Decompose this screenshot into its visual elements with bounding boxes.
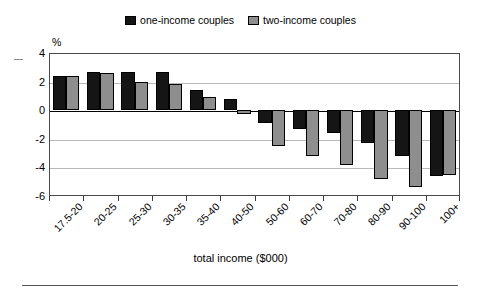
legend-entry-one-income: one-income couples	[125, 14, 234, 26]
footer-divider	[22, 285, 458, 286]
y-tick-label: 2	[15, 77, 45, 88]
y-tick-label: -4	[15, 162, 45, 173]
x-tick-label: 100+	[437, 201, 462, 226]
gridline--4	[50, 168, 459, 169]
legend-label-one-income: one-income couples	[140, 14, 234, 26]
plot-area	[49, 53, 460, 196]
gridline--2	[50, 140, 459, 141]
x-axis-tick-labels: 17.5-2020-2525-3030-3535-4040-5050-6060-…	[49, 201, 460, 251]
x-tick-label: 40-50	[229, 201, 256, 228]
gridline-2	[50, 83, 459, 84]
x-tick-label: 80-90	[366, 201, 393, 228]
x-tick-label: 70-80	[332, 201, 359, 228]
x-axis-title: total income ($000)	[0, 252, 481, 265]
x-tick-label: 30-35	[161, 201, 188, 228]
x-tick-label: 25-30	[127, 201, 154, 228]
x-tick-label: 90-100	[397, 201, 428, 232]
y-axis-unit-label: %	[52, 37, 61, 48]
legend-label-two-income: two-income couples	[263, 14, 356, 26]
legend-entry-two-income: two-income couples	[248, 14, 356, 26]
y-tick-label: 4	[15, 48, 45, 59]
x-tick-label: 60-70	[298, 201, 325, 228]
chart-figure: one-income couples two-income couples % …	[0, 0, 481, 294]
x-tick-label: 20-25	[92, 201, 119, 228]
chart-legend: one-income couples two-income couples	[0, 14, 481, 26]
x-tick-label: 17.5-20	[52, 201, 85, 234]
y-tick-label: 0	[15, 105, 45, 116]
legend-swatch-two-income	[248, 16, 259, 25]
x-tick-label: 50-60	[264, 201, 291, 228]
y-tick-label: -2	[15, 134, 45, 145]
y-axis-tick-labels: 420-2-4-6	[12, 53, 45, 196]
y-tick-label: -6	[15, 191, 45, 202]
zero-line	[50, 111, 459, 112]
x-tick-label: 35-40	[195, 201, 222, 228]
legend-swatch-one-income	[125, 16, 136, 25]
